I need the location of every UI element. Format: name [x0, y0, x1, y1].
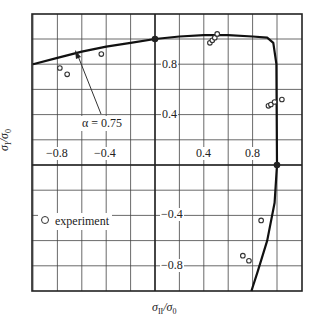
grid-lines — [32, 14, 302, 291]
annotation-arrow — [75, 50, 101, 114]
experiment-point — [280, 97, 285, 102]
highlighted-points — [152, 36, 281, 169]
y-axis-label: σI/σ0 — [0, 129, 13, 151]
experiment-point — [259, 218, 264, 223]
y-tick-neg0.4: −0.4 — [160, 208, 184, 221]
experiment-point — [58, 66, 63, 71]
experiment-point — [241, 253, 246, 258]
yield-locus-chart — [0, 0, 315, 324]
y-label-sigma: σ — [0, 145, 11, 151]
key-point-dot — [152, 36, 159, 43]
experiment-point — [215, 32, 220, 37]
open-circle-icon — [41, 216, 49, 224]
y-tick-0.8: 0.8 — [161, 58, 178, 71]
key-point-dot — [274, 162, 281, 169]
plot-frame — [32, 14, 302, 291]
y-tick-0.4: 0.4 — [161, 108, 178, 121]
y-label-sub2: 0 — [4, 129, 13, 133]
x-tick-0.4: 0.4 — [195, 147, 212, 160]
y-label-sub: I — [4, 142, 13, 145]
annotation-text: α = 0.75 — [82, 116, 122, 130]
y-tick-neg0.8: −0.8 — [160, 259, 184, 272]
experiment-point — [247, 258, 252, 263]
x-label-rest: /σ — [163, 300, 172, 314]
y-label-rest: /σ — [0, 133, 11, 142]
x-label-sub2: 0 — [173, 307, 177, 316]
legend-label: experiment — [55, 214, 109, 228]
x-axis-label: σII/σ0 — [152, 300, 177, 316]
experiment-point — [65, 72, 70, 77]
zero-axes — [32, 14, 302, 291]
experiment-point — [272, 100, 277, 105]
x-tick-neg0.8: −0.8 — [45, 147, 69, 160]
alpha-annotation: α = 0.75 — [80, 116, 124, 131]
experiment-point — [99, 52, 104, 57]
x-tick-0.8: 0.8 — [244, 147, 261, 160]
legend: experiment — [38, 213, 112, 230]
x-tick-neg0.4: −0.4 — [93, 147, 117, 160]
